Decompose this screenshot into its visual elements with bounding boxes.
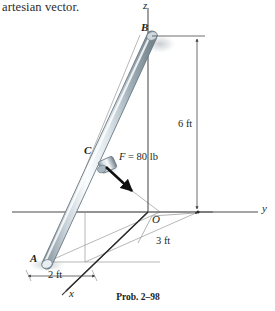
axis-label-x: x	[69, 288, 74, 299]
construction-force-projection	[131, 190, 160, 212]
axis-label-z: z	[143, 0, 147, 11]
tick-point-y3	[196, 210, 199, 213]
figure-canvas: artesian vector.	[0, 0, 275, 311]
figure-caption: Prob. 2–98	[116, 293, 160, 303]
ext-line-2ft-left	[26, 270, 31, 281]
point-label-a: A	[30, 253, 37, 264]
origin-label: O	[152, 214, 160, 225]
dimension-label-2ft: 2 ft	[48, 270, 62, 281]
point-label-c: C	[84, 145, 91, 156]
rod-highlight	[45, 36, 150, 262]
force-label: F = 80 lb	[119, 152, 158, 163]
axis-label-y: y	[262, 203, 267, 214]
dimension-label-6ft: 6 ft	[178, 119, 192, 130]
point-label-b: B	[141, 22, 148, 33]
force-value: = 80 lb	[125, 151, 157, 162]
ext-line-2ft-right	[92, 270, 97, 281]
dimension-label-3ft: 3 ft	[156, 236, 170, 247]
x-axis-arrow	[66, 212, 148, 291]
rod-ab	[40, 30, 158, 270]
